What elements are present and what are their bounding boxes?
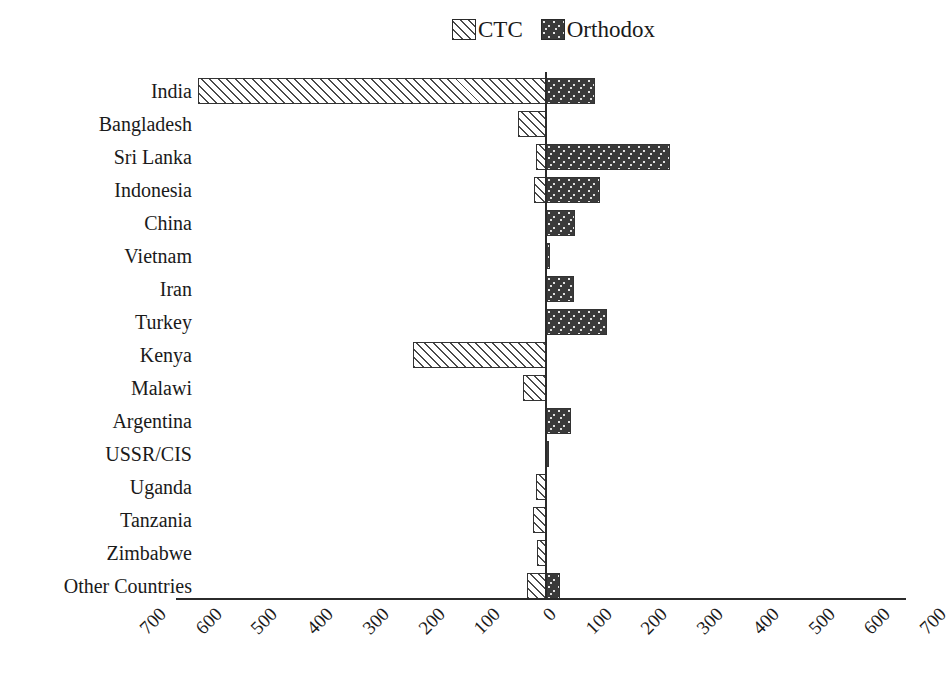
bar-row: Sri Lanka <box>0 140 936 173</box>
bar-ctc-bangladesh <box>518 111 546 137</box>
x-tick-label: 400 <box>726 604 782 660</box>
x-tick-label: 300 <box>671 604 727 660</box>
x-tick-label: 700 <box>114 604 170 660</box>
x-tick-label: 500 <box>225 604 281 660</box>
category-label-iran: Iran <box>160 279 192 299</box>
bar-row: USSR/CIS <box>0 437 936 470</box>
x-axis-ticks: 7006005004003002001000100200300400500600… <box>0 604 936 674</box>
category-label-bangladesh: Bangladesh <box>99 114 192 134</box>
bar-row: Indonesia <box>0 173 936 206</box>
category-label-sri-lanka: Sri Lanka <box>114 147 192 167</box>
x-tick-label: 700 <box>894 604 950 660</box>
bar-row: Malawi <box>0 371 936 404</box>
bar-orthodox-argentina <box>546 408 571 434</box>
x-tick-label: 400 <box>281 604 337 660</box>
bar-orthodox-other-countries <box>546 573 560 599</box>
bar-orthodox-india <box>546 78 595 104</box>
bar-row: Uganda <box>0 470 936 503</box>
x-tick-label: 200 <box>392 604 448 660</box>
bar-row: Tanzania <box>0 503 936 536</box>
x-tick-label: 100 <box>448 604 504 660</box>
category-label-china: China <box>144 213 192 233</box>
category-label-turkey: Turkey <box>135 312 192 332</box>
bar-orthodox-turkey <box>546 309 607 335</box>
bar-orthodox-iran <box>546 276 574 302</box>
bar-row: Turkey <box>0 305 936 338</box>
bar-rows: IndiaBangladeshSri LankaIndonesiaChinaVi… <box>0 74 936 602</box>
x-axis-line <box>176 598 906 600</box>
zero-axis-line <box>545 72 547 600</box>
bar-orthodox-china <box>546 210 575 236</box>
x-tick-label: 200 <box>615 604 671 660</box>
category-label-zimbabwe: Zimbabwe <box>106 543 192 563</box>
category-label-uganda: Uganda <box>130 477 192 497</box>
bar-ctc-kenya <box>413 342 546 368</box>
bar-row: Bangladesh <box>0 107 936 140</box>
bar-row: Vietnam <box>0 239 936 272</box>
category-label-ussr-cis: USSR/CIS <box>105 444 192 464</box>
category-label-other-countries: Other Countries <box>64 576 192 596</box>
x-tick-label: 300 <box>336 604 392 660</box>
category-label-argentina: Argentina <box>112 411 192 431</box>
x-tick-label: 0 <box>504 604 560 660</box>
category-label-kenya: Kenya <box>140 345 192 365</box>
bar-orthodox-indonesia <box>546 177 600 203</box>
bar-row: Zimbabwe <box>0 536 936 569</box>
category-label-india: India <box>151 81 192 101</box>
category-label-vietnam: Vietnam <box>124 246 192 266</box>
bar-row: Argentina <box>0 404 936 437</box>
bar-row: Iran <box>0 272 936 305</box>
category-label-malawi: Malawi <box>131 378 192 398</box>
bar-ctc-malawi <box>523 375 546 401</box>
x-tick-label: 100 <box>559 604 615 660</box>
category-label-indonesia: Indonesia <box>114 180 192 200</box>
bar-row: Kenya <box>0 338 936 371</box>
bar-ctc-other-countries <box>527 573 546 599</box>
bar-row: China <box>0 206 936 239</box>
bar-ctc-india <box>198 78 546 104</box>
x-tick-label: 500 <box>782 604 838 660</box>
bar-row: India <box>0 74 936 107</box>
category-label-tanzania: Tanzania <box>120 510 192 530</box>
x-tick-label: 600 <box>169 604 225 660</box>
x-tick-label: 600 <box>838 604 894 660</box>
bar-orthodox-sri-lanka <box>546 144 670 170</box>
